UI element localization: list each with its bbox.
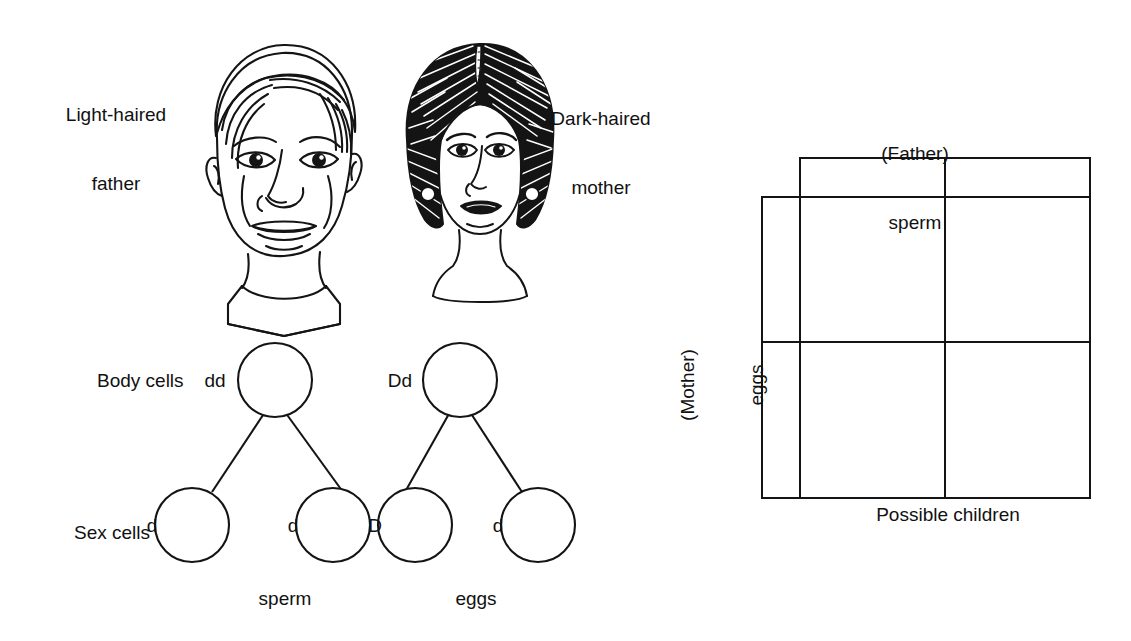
punnett-left-label-line1: (Mother) <box>676 295 699 475</box>
punnett-top-label-line2: sperm <box>820 211 1010 234</box>
body-cells-row-label: Body cells <box>97 369 247 392</box>
mother-body-cell-label: Dd <box>360 369 440 392</box>
connector-mother-left <box>405 412 450 492</box>
punnett-cell-1-1[interactable] <box>945 342 1090 498</box>
connector-father-right <box>285 412 343 492</box>
punnett-cell-1-0[interactable] <box>800 342 945 498</box>
mother-caption-line1: Dark-haired <box>516 107 686 130</box>
sperm-group-label: sperm <box>225 587 345 610</box>
father-portrait <box>170 18 400 338</box>
father-caption-line2: father <box>36 172 196 195</box>
mother-caption-line2: mother <box>516 176 686 199</box>
punnett-left-label: (Mother) eggs <box>630 295 814 475</box>
mother-gamete-2-label: d <box>458 514 538 537</box>
punnett-bottom-label: Possible children <box>833 503 1063 526</box>
punnett-left-label-line2: eggs <box>745 295 768 475</box>
father-gamete-2-label: d <box>253 514 333 537</box>
mother-gamete-1-label: D <box>335 514 415 537</box>
punnett-top-label: (Father) sperm <box>820 96 1010 280</box>
connector-mother-right <box>470 412 522 492</box>
diagram-canvas: Light-haired father Dark-haired mother d… <box>0 0 1131 641</box>
father-caption-line1: Light-haired <box>36 103 196 126</box>
punnett-top-label-line1: (Father) <box>820 142 1010 165</box>
eggs-group-label: eggs <box>421 587 531 610</box>
connector-father-left <box>212 412 265 492</box>
sex-cells-row-label: Sex cells <box>74 521 204 544</box>
father-caption: Light-haired father <box>36 57 196 241</box>
mother-caption: Dark-haired mother <box>516 61 686 245</box>
